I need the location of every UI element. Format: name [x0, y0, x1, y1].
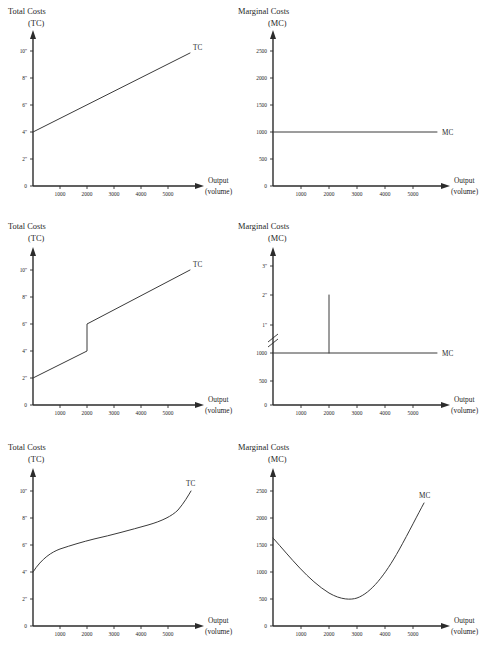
- x-tick-label: 4000: [380, 631, 391, 637]
- x-tick-label: 1000: [55, 410, 66, 416]
- x-axis-label-line2: (volume): [451, 627, 479, 636]
- panel-title-line1: Total Costs: [8, 7, 46, 16]
- y-axis-arrow-icon: [30, 468, 36, 477]
- x-axis-label-line1: Output: [454, 616, 475, 625]
- x-axis-label-line1: Output: [208, 395, 229, 404]
- x-axis-label-line2: (volume): [205, 406, 233, 415]
- y-tick-label: 0: [24, 183, 27, 189]
- y-tick-label: 4'': [22, 348, 27, 354]
- y-tick-label: 3'': [262, 263, 267, 269]
- series-label-mc: MC: [419, 492, 430, 500]
- y-tick-label: 1500: [256, 542, 267, 548]
- x-tick-label: 2000: [324, 191, 335, 197]
- y-tick-label: 6'': [22, 102, 27, 108]
- tc-step-line: [33, 270, 190, 378]
- series-label-mc: MC: [442, 129, 453, 137]
- y-tick-label: 2'': [22, 156, 27, 162]
- x-tick-label: 2000: [82, 410, 93, 416]
- mc-ushape-line: [273, 503, 424, 599]
- y-tick-label: 8'': [22, 75, 27, 81]
- x-tick-label: 4000: [136, 410, 147, 416]
- y-tick-label: 500: [259, 596, 267, 602]
- x-axis-arrow-icon: [441, 183, 450, 189]
- series-label-tc: TC: [193, 44, 202, 52]
- x-tick-label: 1000: [296, 191, 307, 197]
- panel-title-line2: (TC): [28, 234, 44, 243]
- panel-title-line2: (MC): [268, 19, 287, 28]
- y-tick-label: 500: [259, 378, 267, 384]
- x-tick-label: 2000: [82, 191, 93, 197]
- y-axis-arrow-icon: [270, 30, 276, 39]
- panel-mc-spike: Marginal Costs (MC) 0 500 1000 1'' 2'' 3…: [246, 215, 492, 430]
- panel-tc-sigmoid: Total Costs (TC) 0 2'' 4'' 6'' 8'' 10'' …: [0, 430, 246, 651]
- y-tick-label: 0: [264, 402, 267, 408]
- y-tick-label: 1000: [256, 569, 267, 575]
- x-axis-arrow-icon: [441, 623, 450, 629]
- y-tick-label: 500: [259, 156, 267, 162]
- x-tick-label: 5000: [408, 631, 419, 637]
- x-axis-arrow-icon: [195, 183, 204, 189]
- figure-grid: Total Costs (TC) 0 2'' 4'' 6'' 8'' 10'': [0, 0, 492, 651]
- x-axis-label-line1: Output: [454, 176, 475, 185]
- panel-title-line1: Marginal Costs: [238, 7, 289, 16]
- series-label-tc: TC: [193, 261, 202, 269]
- x-tick-label: 5000: [163, 631, 174, 637]
- y-tick-label: 6'': [22, 321, 27, 327]
- y-axis-arrow-icon: [270, 468, 276, 477]
- y-tick-label: 0: [264, 623, 267, 629]
- x-tick-label: 1000: [296, 631, 307, 637]
- x-tick-label: 3000: [352, 410, 363, 416]
- x-tick-label: 5000: [163, 410, 174, 416]
- panel-tc-step: Total Costs (TC) 0 2'' 4'' 6'' 8'' 10'' …: [0, 215, 246, 430]
- tc-sigmoid-line: [33, 491, 191, 572]
- x-axis-label-line2: (volume): [451, 406, 479, 415]
- x-axis-label-line1: Output: [208, 616, 229, 625]
- x-tick-label: 2000: [324, 410, 335, 416]
- y-tick-label: 8'': [22, 294, 27, 300]
- y-tick-label: 2500: [256, 48, 267, 54]
- panel-mc-constant: Marginal Costs (MC) 0 500 1000 1500 2000…: [246, 0, 492, 210]
- x-axis-label-line2: (volume): [205, 187, 233, 196]
- x-tick-label: 1000: [296, 410, 307, 416]
- x-tick-label: 2000: [324, 631, 335, 637]
- y-tick-label: 2500: [256, 488, 267, 494]
- y-tick-label: 8'': [22, 515, 27, 521]
- series-label-mc: MC: [442, 350, 453, 358]
- x-tick-label: 1000: [55, 191, 66, 197]
- x-tick-label: 4000: [136, 191, 147, 197]
- y-tick-label: 1'': [262, 322, 267, 328]
- y-tick-label: 2'': [22, 375, 27, 381]
- y-tick-label: 4'': [22, 129, 27, 135]
- y-axis-arrow-icon: [30, 30, 36, 39]
- y-axis-arrow-icon: [270, 247, 276, 256]
- x-tick-label: 3000: [109, 631, 120, 637]
- x-tick-label: 4000: [380, 410, 391, 416]
- y-tick-label: 2000: [256, 75, 267, 81]
- x-tick-label: 4000: [380, 191, 391, 197]
- y-tick-label: 6'': [22, 542, 27, 548]
- x-tick-label: 3000: [352, 191, 363, 197]
- panel-tc-linear: Total Costs (TC) 0 2'' 4'' 6'' 8'' 10'': [0, 0, 246, 210]
- x-tick-label: 2000: [82, 631, 93, 637]
- y-tick-label: 0: [24, 402, 27, 408]
- y-tick-label: 4'': [22, 569, 27, 575]
- panel-title-line2: (TC): [28, 455, 44, 464]
- y-tick-label: 10'': [20, 48, 27, 54]
- series-label-tc: TC: [186, 480, 195, 488]
- y-tick-label: 1000: [256, 350, 267, 356]
- x-tick-label: 1000: [55, 631, 66, 637]
- y-tick-label: 2000: [256, 515, 267, 521]
- y-tick-label: 2'': [22, 596, 27, 602]
- y-tick-label: 10'': [20, 488, 27, 494]
- x-axis-label-line2: (volume): [205, 627, 233, 636]
- x-axis-arrow-icon: [195, 623, 204, 629]
- panel-title-line1: Marginal Costs: [238, 443, 289, 452]
- x-tick-label: 3000: [109, 410, 120, 416]
- y-tick-label: 0: [264, 183, 267, 189]
- y-axis-arrow-icon: [30, 247, 36, 256]
- y-tick-label: 10'': [20, 267, 27, 273]
- panel-title-line1: Total Costs: [8, 222, 46, 231]
- x-tick-label: 5000: [408, 191, 419, 197]
- x-tick-label: 3000: [352, 631, 363, 637]
- x-axis-label-line1: Output: [208, 176, 229, 185]
